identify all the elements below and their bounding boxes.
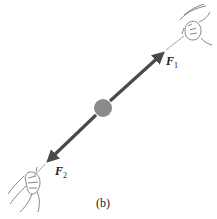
ball [94,99,112,117]
figure-caption: (b) [96,196,110,211]
hand-lower-left-icon [8,167,40,212]
force-diagram [0,0,217,219]
force-subscript: 2 [63,171,67,180]
string-upper [166,36,184,50]
force-symbol: F [166,54,174,68]
force-arrow-f1 [110,54,162,101]
force-arrow-f2 [49,115,96,160]
force-label-f1: F1 [166,54,178,70]
hand-upper-right-icon [180,4,212,45]
force-symbol: F [55,164,63,178]
string-lower [34,164,45,176]
force-subscript: 1 [174,61,178,70]
force-label-f2: F2 [55,164,67,180]
